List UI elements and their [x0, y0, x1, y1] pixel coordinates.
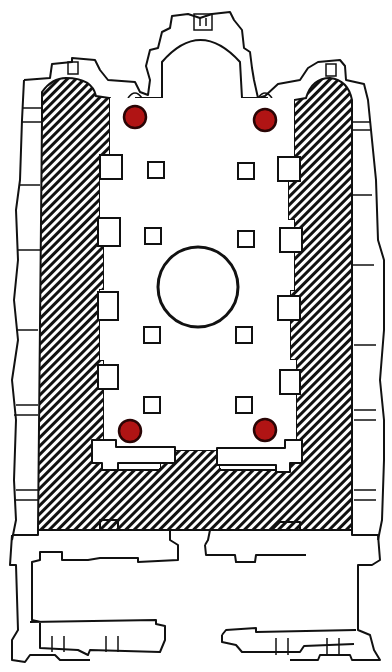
- pillar: [238, 163, 254, 179]
- pillar: [238, 231, 254, 247]
- pillar: [144, 327, 160, 343]
- marker-bottom-left: [119, 420, 141, 442]
- pillar: [145, 228, 161, 244]
- pillar: [236, 327, 252, 343]
- marker-bottom-right: [254, 419, 276, 441]
- marker-top-left: [124, 106, 146, 128]
- pillar: [144, 397, 160, 413]
- pillar: [148, 162, 164, 178]
- floor-plan: [0, 0, 392, 672]
- pillar: [236, 397, 252, 413]
- apse: [68, 14, 336, 98]
- central-dome: [158, 247, 238, 327]
- marker-top-right: [254, 109, 276, 131]
- narthex: [10, 520, 380, 662]
